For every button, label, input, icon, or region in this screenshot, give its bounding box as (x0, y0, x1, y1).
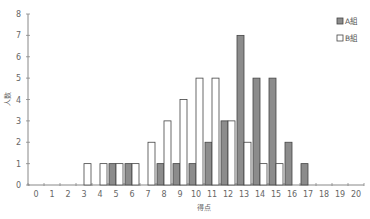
y-tick-label: 8 (16, 10, 21, 19)
bars (84, 35, 308, 185)
bar-a (125, 164, 132, 185)
x-tick-label: 14 (255, 190, 265, 199)
x-tick-label: 0 (33, 190, 38, 199)
bar-b (116, 164, 123, 185)
bar-a (269, 78, 276, 185)
y-tick-label: 6 (16, 53, 21, 62)
bar-a (189, 164, 196, 185)
legend-label-b: B組 (345, 33, 358, 43)
bar-a (253, 78, 260, 185)
y-tick-label: 2 (16, 138, 21, 147)
y-tick-label: 0 (16, 181, 21, 190)
bar-b (196, 78, 203, 185)
x-tick-label: 5 (113, 190, 118, 199)
bar-chart: 012345678 012345678910111213141516171819… (0, 0, 370, 219)
x-tick-label: 10 (191, 190, 201, 199)
bar-b (84, 164, 91, 185)
x-axis-title: 得点 (197, 203, 211, 212)
x-tick-label: 15 (271, 190, 281, 199)
bar-b (228, 121, 235, 185)
x-tick-label: 8 (161, 190, 166, 199)
x-tick-label: 1 (49, 190, 54, 199)
legend-swatch-b (337, 35, 343, 41)
y-tick-label: 4 (16, 96, 21, 105)
y-axis: 012345678 (16, 10, 30, 190)
bar-a (205, 142, 212, 185)
bar-b (212, 78, 219, 185)
x-tick-label: 11 (207, 190, 217, 199)
x-tick-label: 18 (319, 190, 329, 199)
y-axis-title: 人数 (3, 92, 12, 106)
x-tick-label: 6 (129, 190, 134, 199)
x-tick-label: 12 (223, 190, 233, 199)
x-tick-label: 20 (351, 190, 361, 199)
x-tick-label: 3 (81, 190, 86, 199)
y-tick-label: 5 (16, 74, 21, 83)
bar-a (285, 142, 292, 185)
bar-a (173, 164, 180, 185)
x-tick-label: 2 (65, 190, 70, 199)
legend-swatch-a (337, 18, 343, 24)
y-tick-label: 7 (16, 31, 21, 40)
x-tick-label: 13 (239, 190, 249, 199)
x-tick-label: 9 (177, 190, 182, 199)
legend-label-a: A組 (345, 16, 358, 26)
bar-a (237, 35, 244, 185)
x-tick-label: 4 (97, 190, 102, 199)
legend: A組 B組 (337, 16, 358, 43)
x-tick-label: 7 (145, 190, 150, 199)
bar-b (244, 142, 251, 185)
bar-b (132, 164, 139, 185)
x-tick-label: 19 (335, 190, 345, 199)
x-tick-label: 16 (287, 190, 297, 199)
bar-b (100, 164, 107, 185)
bar-a (109, 164, 116, 185)
bar-b (260, 164, 267, 185)
bar-b (276, 164, 283, 185)
y-tick-label: 1 (16, 160, 21, 169)
bar-b (148, 142, 155, 185)
x-tick-label: 17 (303, 190, 313, 199)
y-tick-label: 3 (16, 117, 21, 126)
bar-b (180, 100, 187, 186)
bar-a (301, 164, 308, 185)
bar-a (221, 121, 228, 185)
bar-a (157, 164, 164, 185)
bar-b (164, 121, 171, 185)
